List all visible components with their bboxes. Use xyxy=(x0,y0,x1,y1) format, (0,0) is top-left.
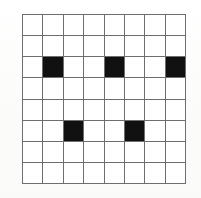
grid-cell-empty[interactable] xyxy=(84,163,103,183)
grid-cell-empty[interactable] xyxy=(43,36,62,56)
grid-cell-empty[interactable] xyxy=(64,78,83,98)
grid-cell-empty[interactable] xyxy=(43,15,62,35)
grid-cell-filled[interactable] xyxy=(43,57,62,77)
grid-cell-empty[interactable] xyxy=(84,121,103,141)
grid-cell-empty[interactable] xyxy=(166,78,185,98)
grid-cell-empty[interactable] xyxy=(23,163,42,183)
grid-cell-empty[interactable] xyxy=(145,163,164,183)
grid-cell-empty[interactable] xyxy=(84,15,103,35)
grid-cell-empty[interactable] xyxy=(23,121,42,141)
grid-cell-filled[interactable] xyxy=(105,57,124,77)
grid-cell-empty[interactable] xyxy=(23,36,42,56)
grid-cell-empty[interactable] xyxy=(125,142,144,162)
grid-cell-empty[interactable] xyxy=(125,100,144,120)
grid-cell-empty[interactable] xyxy=(125,57,144,77)
grid-cell-empty[interactable] xyxy=(64,57,83,77)
grid-cell-empty[interactable] xyxy=(145,15,164,35)
grid-cell-empty[interactable] xyxy=(166,121,185,141)
grid-cell-empty[interactable] xyxy=(166,163,185,183)
grid-cell-empty[interactable] xyxy=(23,100,42,120)
grid-cell-empty[interactable] xyxy=(23,78,42,98)
grid-cell-empty[interactable] xyxy=(64,163,83,183)
grid-wrapper xyxy=(22,14,186,184)
grid-cell-filled[interactable] xyxy=(166,57,185,77)
grid-cell-empty[interactable] xyxy=(43,142,62,162)
grid-cell-empty[interactable] xyxy=(23,15,42,35)
grid-cell-empty[interactable] xyxy=(125,36,144,56)
grid-cell-empty[interactable] xyxy=(84,100,103,120)
grid-cell-empty[interactable] xyxy=(166,15,185,35)
grid-cell-filled[interactable] xyxy=(64,121,83,141)
grid-cell-empty[interactable] xyxy=(145,36,164,56)
grid-cell-empty[interactable] xyxy=(64,142,83,162)
grid-cell-empty[interactable] xyxy=(64,36,83,56)
grid-cell-empty[interactable] xyxy=(145,142,164,162)
grid-cell-empty[interactable] xyxy=(64,100,83,120)
grid-cell-empty[interactable] xyxy=(84,78,103,98)
grid-cell-empty[interactable] xyxy=(105,100,124,120)
grid-cell-empty[interactable] xyxy=(125,78,144,98)
grid-cell-empty[interactable] xyxy=(166,36,185,56)
grid-cell-empty[interactable] xyxy=(105,121,124,141)
grid-cell-empty[interactable] xyxy=(105,36,124,56)
grid-cell-empty[interactable] xyxy=(64,15,83,35)
grid-cell-empty[interactable] xyxy=(145,121,164,141)
grid-cell-empty[interactable] xyxy=(43,100,62,120)
grid-cell-empty[interactable] xyxy=(43,121,62,141)
grid-cell-empty[interactable] xyxy=(105,163,124,183)
grid-cell-empty[interactable] xyxy=(166,100,185,120)
grid-cell-empty[interactable] xyxy=(166,142,185,162)
grid-cell-filled[interactable] xyxy=(125,121,144,141)
grid-cell-empty[interactable] xyxy=(105,142,124,162)
grid-cell-empty[interactable] xyxy=(145,78,164,98)
grid-cell-empty[interactable] xyxy=(145,57,164,77)
grid-cell-empty[interactable] xyxy=(84,142,103,162)
grid-cell-empty[interactable] xyxy=(145,100,164,120)
grid-cell-empty[interactable] xyxy=(125,15,144,35)
grid-cell-empty[interactable] xyxy=(23,142,42,162)
cell-grid[interactable] xyxy=(22,14,186,184)
grid-cell-empty[interactable] xyxy=(84,57,103,77)
grid-cell-empty[interactable] xyxy=(125,163,144,183)
grid-cell-empty[interactable] xyxy=(43,78,62,98)
grid-cell-empty[interactable] xyxy=(84,36,103,56)
grid-cell-empty[interactable] xyxy=(105,15,124,35)
grid-cell-empty[interactable] xyxy=(105,78,124,98)
grid-cell-empty[interactable] xyxy=(43,163,62,183)
figure-canvas xyxy=(0,0,201,198)
grid-cell-empty[interactable] xyxy=(23,57,42,77)
